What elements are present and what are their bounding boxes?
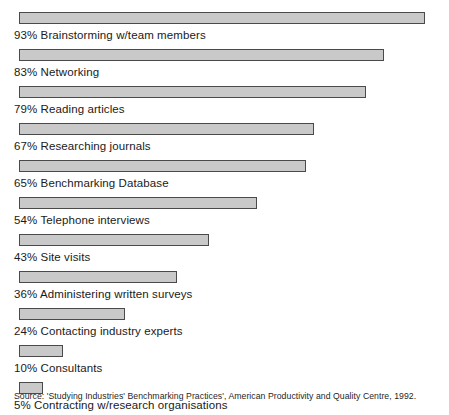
bar-shape	[19, 49, 384, 61]
bar-label: 43% Site visits	[14, 250, 90, 264]
bar-row: 36% Administering written surveys	[0, 271, 449, 308]
bar-shape	[19, 123, 314, 135]
bar-shape	[19, 234, 209, 246]
bar-track	[19, 271, 449, 285]
bar-label: 36% Administering written surveys	[14, 287, 192, 301]
bar-track	[19, 49, 449, 63]
bar-row: 83% Networking	[0, 49, 449, 86]
bar-label: 79% Reading articles	[14, 102, 125, 116]
bar-label: 65% Benchmarking Database	[14, 176, 169, 190]
bar-row: 54% Telephone interviews	[0, 197, 449, 234]
bar-shape	[19, 308, 125, 320]
bar-label: 67% Researching journals	[14, 139, 151, 153]
bar-track	[19, 160, 449, 174]
bar-label: 24% Contacting industry experts	[14, 324, 183, 338]
bar-row: 67% Researching journals	[0, 123, 449, 160]
bar-shape	[19, 12, 425, 24]
bar-track	[19, 308, 449, 322]
bar-label: 83% Networking	[14, 65, 99, 79]
bar-track	[19, 86, 449, 100]
bar-label: 93% Brainstorming w/team members	[14, 28, 206, 42]
bar-track	[19, 234, 449, 248]
source-note: Source: 'Studying Industries' Benchmarki…	[14, 390, 416, 402]
bar-shape	[19, 345, 63, 357]
bar-track	[19, 345, 449, 359]
bar-label: 10% Consultants	[14, 361, 102, 375]
bar-rows-container: 93% Brainstorming w/team members 83% Net…	[0, 12, 449, 415]
bar-shape	[19, 86, 366, 98]
bar-track	[19, 123, 449, 137]
bar-row: 65% Benchmarking Database	[0, 160, 449, 197]
bar-row: 93% Brainstorming w/team members	[0, 12, 449, 49]
bar-row: 24% Contacting industry experts	[0, 308, 449, 345]
bar-label: 54% Telephone interviews	[14, 213, 150, 227]
bar-row: 43% Site visits	[0, 234, 449, 271]
bar-row: 79% Reading articles	[0, 86, 449, 123]
bar-shape	[19, 197, 257, 209]
bar-shape	[19, 160, 306, 172]
bar-shape	[19, 271, 177, 283]
bar-track	[19, 12, 449, 26]
bar-row: 10% Consultants	[0, 345, 449, 382]
bar-track	[19, 197, 449, 211]
